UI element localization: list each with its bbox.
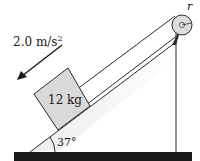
acceleration-label: 2.0 m/s2	[13, 34, 63, 49]
arrowhead-icon	[17, 71, 27, 80]
pulley	[172, 15, 192, 35]
incline-angle-label: 37°	[57, 136, 77, 149]
block-mass-label: 12 kg	[48, 93, 82, 107]
acceleration-arrow	[17, 45, 62, 80]
acceleration-exponent: 2	[57, 34, 62, 43]
acceleration-value: 2.0 m/s	[13, 35, 57, 49]
ground	[14, 152, 192, 161]
rope-lower	[86, 35, 178, 105]
pulley-radius-label: r	[187, 0, 193, 13]
incline-pulley-diagram: 12 kg 2.0 m/s2 r 37°	[0, 0, 200, 161]
